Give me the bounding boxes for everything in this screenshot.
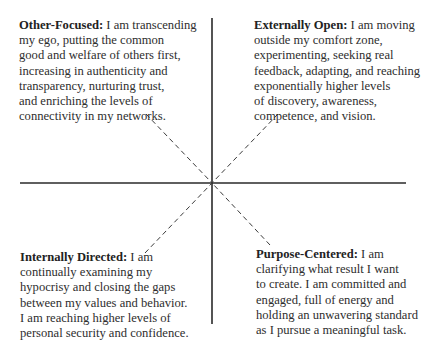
quadrant-text: increasing in authenticity and (19, 64, 197, 79)
quadrant-title: Externally Open: (254, 18, 347, 32)
quadrant-line: Purpose-Centered: I am (256, 247, 418, 262)
quadrant-text: holding an unwavering standard (256, 308, 418, 323)
quadrant-text: and enriching the levels of (19, 94, 197, 109)
quadrant-text: clarifying what result I want (256, 262, 418, 277)
quadrant-text: exponentially higher levels (254, 79, 420, 94)
quadrant-line: Internally Directed: I am (20, 250, 189, 265)
quadrant-text: hypocrisy and closing the gaps (20, 280, 189, 295)
quadrant-text: experimenting, seeking real (254, 48, 420, 63)
connector-sw (145, 183, 212, 253)
quadrant-title: Other-Focused: (19, 18, 103, 32)
quadrant-line: Externally Open: I am moving (254, 18, 420, 33)
quadrant-other-focused: Other-Focused: I am transcending my ego,… (19, 18, 197, 124)
connector-se (212, 183, 270, 245)
quadrant-text: I am moving (347, 18, 415, 32)
quadrant-text: feedback, adapting, and reaching (254, 64, 420, 79)
quadrant-text: my ego, putting the common (19, 33, 197, 48)
quadrant-text: as I pursue a meaningful task. (256, 323, 418, 338)
quadrant-text: outside my comfort zone, (254, 33, 420, 48)
quadrant-text: continually examining my (20, 265, 189, 280)
quadrant-text: engaged, full of energy and (256, 293, 418, 308)
quadrant-title: Internally Directed: (20, 250, 127, 264)
quadrant-text: I am (358, 247, 384, 261)
quadrant-text: of discovery, awareness, (254, 94, 420, 109)
quadrant-internally-directed: Internally Directed: I am continually ex… (20, 250, 189, 341)
quadrant-text: between my values and behavior. (20, 296, 189, 311)
quadrant-text: connectivity in my networks. (19, 109, 197, 124)
quadrant-text: personal security and confidence. (20, 326, 189, 341)
quadrant-purpose-centered: Purpose-Centered: I am clarifying what r… (256, 247, 418, 338)
quadrant-text: I am (127, 250, 153, 264)
quadrant-title: Purpose-Centered: (256, 247, 358, 261)
quadrant-text: to create. I am committed and (256, 277, 418, 292)
quadrant-text: I am reaching higher levels of (20, 311, 189, 326)
quadrant-text: competence, and vision. (254, 109, 420, 124)
quadrant-externally-open: Externally Open: I am moving outside my … (254, 18, 420, 124)
quadrant-line: Other-Focused: I am transcending (19, 18, 197, 33)
quadrant-text: I am transcending (103, 18, 196, 32)
quadrant-text: transparency, nurturing trust, (19, 79, 197, 94)
quadrant-text: good and welfare of others first, (19, 48, 197, 63)
